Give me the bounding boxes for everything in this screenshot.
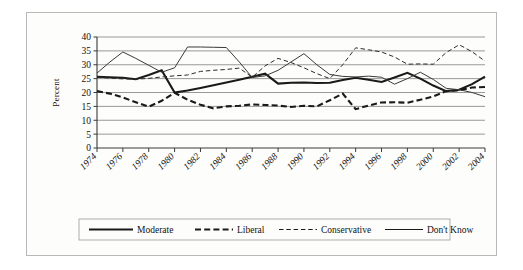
- x-tick-label: 1992: [311, 151, 332, 172]
- y-tick-label: 5: [86, 130, 91, 140]
- data-series: [97, 45, 485, 109]
- x-tick-label: 2004: [466, 151, 487, 172]
- legend-label-0[interactable]: Moderate: [137, 225, 173, 235]
- y-axis-title: Percent: [51, 78, 61, 107]
- legend-label-2[interactable]: Conservative: [321, 225, 371, 235]
- y-tick-label: 40: [82, 32, 92, 42]
- x-tick-label: 1976: [104, 151, 125, 172]
- line-chart-svg: 0510152025303540 19741976197819801982198…: [27, 13, 498, 257]
- chart-legend[interactable]: ModerateLiberalConservativeDon't Know: [79, 219, 473, 240]
- x-tick-label: 1980: [156, 151, 177, 172]
- chart-plot-area: 0510152025303540 19741976197819801982198…: [27, 13, 498, 257]
- x-tick-label: 1994: [337, 151, 358, 172]
- x-tick-label: 1984: [207, 151, 228, 172]
- series-line-liberal: [97, 87, 485, 109]
- y-tick-label: 15: [82, 102, 92, 112]
- x-tick-label: 2002: [440, 151, 461, 172]
- y-axis-label: Percent: [51, 78, 61, 107]
- x-tick-label: 2000: [414, 151, 435, 172]
- y-tick-label: 10: [82, 116, 92, 126]
- x-tick-label: 1978: [130, 151, 151, 172]
- y-tick-label: 30: [82, 60, 92, 70]
- x-tick-label: 1996: [362, 151, 383, 172]
- x-tick-label: 1990: [285, 151, 306, 172]
- x-tick-label: 1974: [78, 151, 99, 172]
- x-tick-label: 1998: [388, 151, 409, 172]
- gridlines: [97, 37, 485, 134]
- x-tick-label: 1982: [181, 151, 202, 172]
- y-tick-label: 20: [82, 88, 92, 98]
- legend-label-1[interactable]: Liberal: [237, 225, 265, 235]
- x-axis-ticks: 1974197619781980198219841986198819901992…: [78, 148, 487, 172]
- legend-label-3[interactable]: Don't Know: [427, 225, 473, 235]
- x-tick-label: 1986: [233, 151, 254, 172]
- y-tick-label: 25: [82, 74, 92, 84]
- chart-figure: 0510152025303540 19741976197819801982198…: [26, 12, 497, 256]
- series-line-moderate: [97, 70, 485, 92]
- y-axis-ticks: 0510152025303540: [82, 32, 98, 153]
- y-tick-label: 35: [82, 46, 92, 56]
- x-tick-label: 1988: [259, 151, 280, 172]
